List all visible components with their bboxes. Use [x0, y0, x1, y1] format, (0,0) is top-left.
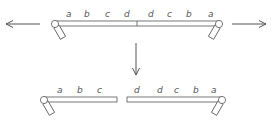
locus-label: c: [167, 9, 172, 19]
locus-label: d: [157, 85, 163, 95]
dicentric-bridge-diagram: a b c d d c b a a b c d d c b a: [0, 0, 274, 124]
locus-label: c: [105, 9, 110, 19]
locus-label: d: [134, 85, 140, 95]
locus-label: c: [174, 85, 179, 95]
bottom-left-fragment: a b c: [40, 85, 117, 115]
locus-label: b: [186, 9, 192, 19]
bottom-right-fragment: d d c b a: [127, 85, 226, 115]
top-chromosome: a b c d d c b a: [51, 9, 222, 39]
locus-label: c: [97, 85, 102, 95]
locus-label: a: [208, 9, 214, 19]
locus-label: a: [211, 85, 217, 95]
locus-label: d: [148, 9, 154, 19]
locus-label: b: [77, 85, 83, 95]
locus-label: b: [193, 85, 199, 95]
locus-label: d: [124, 9, 130, 19]
locus-label: a: [57, 85, 63, 95]
locus-label: b: [84, 9, 90, 19]
locus-label: a: [66, 9, 72, 19]
